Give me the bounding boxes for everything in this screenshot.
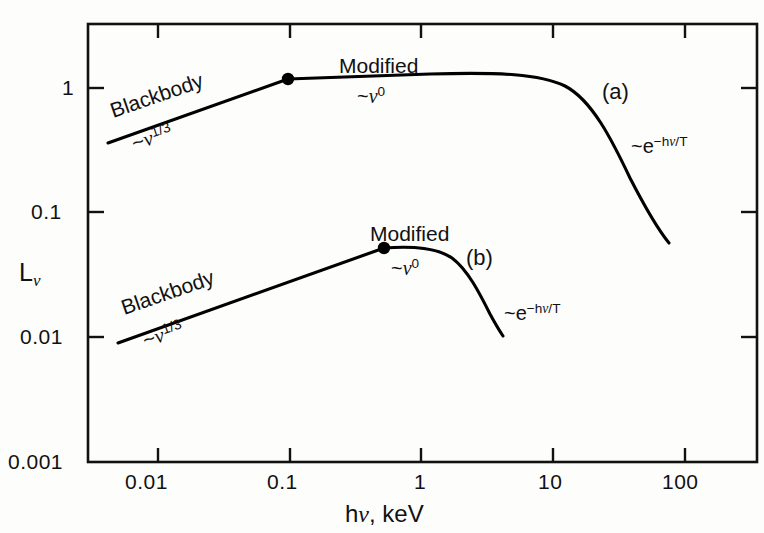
x-tick-label-10: 10	[538, 470, 562, 494]
y-axis-ticks	[88, 88, 757, 337]
annotation-slope-flat-b: ~ν0	[391, 256, 419, 280]
figure-container: 1 0.1 0.01 0.001 Lν 0.01 0.1 1 10 100 hν…	[0, 0, 764, 533]
exp-numerator-h: −h	[527, 301, 543, 316]
exp-denominator: /T	[675, 134, 687, 149]
transition-marker-a	[282, 73, 294, 85]
annotation-curve-label-b: (b)	[466, 245, 493, 271]
exponent: 0	[378, 84, 386, 99]
annotation-modified-b: Modified	[370, 222, 449, 246]
y-tick-label-0.01: 0.01	[20, 325, 63, 349]
tilde-prefix: ~	[357, 85, 369, 107]
x-tick-label-100: 100	[662, 470, 699, 494]
exponent: 0	[412, 256, 420, 271]
y-tick-label-0.001: 0.001	[8, 450, 63, 474]
tilde-prefix: ~	[391, 257, 403, 279]
x-tick-label-0.01: 0.01	[125, 470, 168, 494]
exp-numerator-h: −h	[654, 134, 670, 149]
x-axis-title-main: h	[345, 500, 358, 527]
exp-prefix: ~e	[631, 135, 654, 157]
y-tick-label-1: 1	[62, 76, 74, 100]
exp-denominator: /T	[548, 301, 560, 316]
y-axis-title-nu: ν	[33, 271, 41, 290]
x-axis-title: hν, keV	[345, 500, 424, 528]
x-tick-label-0.1: 0.1	[267, 470, 298, 494]
y-tick-label-0.1: 0.1	[31, 200, 62, 224]
x-axis-title-tail: , keV	[369, 500, 424, 527]
y-axis-title: Lν	[19, 258, 40, 291]
exp-prefix: ~e	[504, 302, 527, 324]
x-tick-label-1: 1	[414, 470, 426, 494]
annotation-modified-a: Modified	[339, 54, 418, 78]
annotation-slope-flat-a: ~ν0	[357, 84, 385, 108]
annotation-slope-exp-b: ~e−hν/T	[504, 301, 560, 325]
nu-symbol: ν	[369, 85, 378, 107]
series-curve-a	[108, 73, 669, 243]
annotation-slope-exp-a: ~e−hν/T	[631, 134, 687, 158]
chart-plot-area	[0, 0, 764, 533]
annotation-curve-label-a: (a)	[602, 79, 629, 105]
y-axis-title-main: L	[19, 258, 33, 286]
nu-symbol: ν	[403, 257, 412, 279]
x-axis-title-nu: ν	[358, 501, 369, 527]
